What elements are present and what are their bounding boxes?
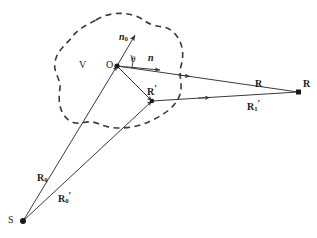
label-vector-R0-subscript: 0	[44, 176, 47, 183]
label-vector-n0: n0	[119, 32, 128, 43]
point-marker-R-prime	[150, 99, 154, 103]
vector-R0-prime	[23, 101, 152, 221]
label-vector-R0-prime: R0′	[58, 192, 71, 205]
scattering-geometry-figure: V O θ n0 n R′ R R R1′ R0 R0′ S	[0, 0, 317, 238]
label-point-R: R	[303, 79, 310, 89]
label-vector-R: R	[255, 79, 262, 89]
label-volume-V: V	[79, 60, 86, 70]
vector-R1-prime	[152, 92, 298, 101]
diagram-canvas	[0, 0, 317, 238]
label-vector-R-prime-mark: ′	[154, 84, 157, 94]
vector-R1-prime-mid-arrow	[198, 97, 210, 98]
point-marker-O	[114, 63, 119, 68]
point-marker-S	[20, 218, 26, 224]
point-marker-R	[296, 90, 301, 95]
label-vector-n0-subscript: 0	[125, 35, 128, 42]
label-vector-R0: R0	[37, 173, 48, 184]
label-angle-theta: θ	[131, 55, 135, 64]
label-source-S: S	[8, 215, 14, 225]
label-vector-R1-prime: R1′	[247, 100, 260, 113]
label-vector-R0-prime-mark: ′	[69, 191, 72, 201]
vector-R	[117, 66, 298, 92]
label-origin-O: O	[106, 60, 113, 70]
label-vector-n: n	[148, 53, 154, 63]
label-vector-R-prime: R′	[147, 85, 157, 97]
label-vector-R1-prime-mark: ′	[258, 99, 261, 109]
